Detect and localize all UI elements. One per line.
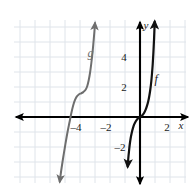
plot-background <box>0 0 196 195</box>
x-axis-tick-label: –2 <box>100 121 112 133</box>
x-axis-label: x <box>178 119 184 131</box>
y-axis-tick-label: –2 <box>114 141 126 153</box>
coordinate-plane: –4–2242–2 gf x y <box>0 0 196 195</box>
x-axis-tick-label: –4 <box>70 121 83 133</box>
x-axis-tick-label: 2 <box>164 121 170 133</box>
y-axis-label: y <box>143 19 149 31</box>
y-axis-tick-label: 2 <box>121 81 127 93</box>
curve-label-g: g <box>88 46 94 60</box>
y-axis-tick-label: 4 <box>121 51 127 63</box>
graph-figure: –4–2242–2 gf x y <box>0 0 196 195</box>
